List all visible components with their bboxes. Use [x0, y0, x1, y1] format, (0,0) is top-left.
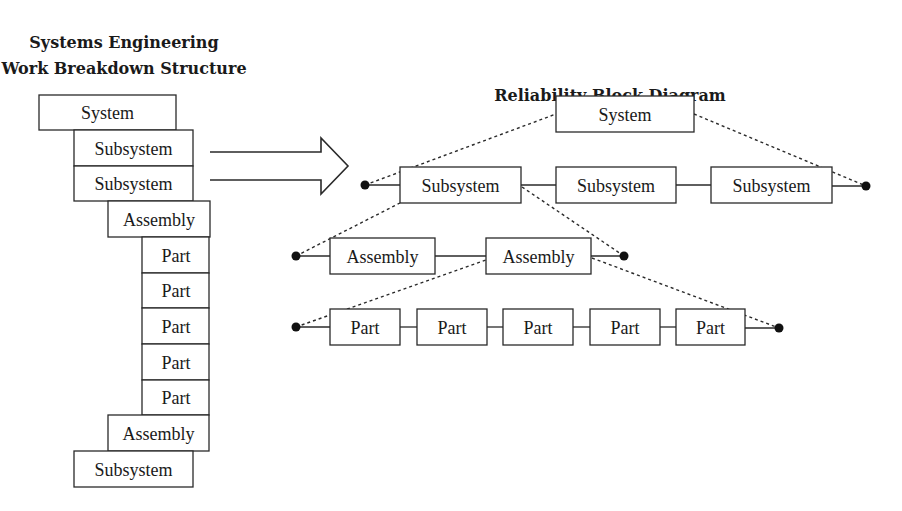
svg-text:Assembly: Assembly [123, 210, 195, 230]
svg-text:Assembly: Assembly [123, 424, 195, 444]
svg-text:Part: Part [524, 318, 553, 338]
svg-text:System: System [598, 105, 651, 125]
svg-text:Subsystem: Subsystem [732, 176, 810, 196]
terminal-node [292, 323, 301, 332]
svg-text:System: System [81, 103, 134, 123]
terminal-node [862, 182, 871, 191]
wbs-item-system: System [39, 95, 176, 130]
rbd-subsystem-row: Subsystem Subsystem Subsystem [361, 167, 871, 203]
rbd-block-assembly: Assembly [486, 238, 591, 274]
rbd-block-subsystem: Subsystem [400, 167, 521, 203]
terminal-node [775, 324, 784, 333]
wbs-panel: Systems Engineering Work Breakdown Struc… [0, 33, 246, 487]
rbd-block-part: Part [676, 309, 745, 345]
rbd-block-part: Part [330, 309, 400, 345]
wbs-item-subsystem: Subsystem [74, 166, 193, 201]
svg-text:Part: Part [162, 246, 191, 266]
svg-text:Part: Part [696, 318, 725, 338]
wbs-item-assembly: Assembly [108, 415, 209, 451]
svg-text:Subsystem: Subsystem [94, 174, 172, 194]
rbd-block-part: Part [503, 309, 573, 345]
rbd-block-subsystem: Subsystem [711, 167, 832, 203]
transform-arrow-icon [210, 138, 348, 194]
wbs-item-part: Part [142, 273, 209, 308]
svg-text:Part: Part [611, 318, 640, 338]
wbs-item-part: Part [142, 308, 209, 344]
rbd-panel: Reliability Block Diagram System Subsyst… [292, 86, 871, 345]
svg-text:Subsystem: Subsystem [94, 139, 172, 159]
wbs-item-part: Part [142, 344, 209, 380]
rbd-block-assembly: Assembly [330, 238, 435, 274]
svg-text:Assembly: Assembly [503, 247, 575, 267]
wbs-item-part: Part [142, 237, 209, 273]
rbd-block-part: Part [590, 309, 660, 345]
svg-text:Subsystem: Subsystem [421, 176, 499, 196]
wbs-item-part: Part [142, 380, 209, 415]
svg-text:Part: Part [162, 388, 191, 408]
svg-text:Subsystem: Subsystem [94, 460, 172, 480]
svg-text:Part: Part [351, 318, 380, 338]
rbd-block-subsystem: Subsystem [556, 167, 676, 203]
wbs-item-assembly: Assembly [108, 201, 210, 237]
svg-text:Part: Part [438, 318, 467, 338]
svg-text:Assembly: Assembly [347, 247, 419, 267]
svg-text:Part: Part [162, 317, 191, 337]
terminal-node [361, 181, 370, 190]
terminal-node [620, 252, 629, 261]
svg-text:Part: Part [162, 353, 191, 373]
wbs-title-line1: Systems Engineering [29, 33, 218, 52]
diagram-canvas: Systems Engineering Work Breakdown Struc… [0, 0, 902, 511]
svg-text:Subsystem: Subsystem [577, 176, 655, 196]
wbs-item-subsystem: Subsystem [74, 130, 193, 166]
svg-text:Part: Part [162, 281, 191, 301]
terminal-node [292, 252, 301, 261]
rbd-part-row: Part Part Part Part Part [292, 309, 784, 345]
wbs-item-subsystem: Subsystem [74, 451, 193, 487]
rbd-block-part: Part [417, 309, 487, 345]
wbs-title-line2: Work Breakdown Structure [0, 59, 246, 78]
rbd-block-system: System [556, 96, 694, 132]
